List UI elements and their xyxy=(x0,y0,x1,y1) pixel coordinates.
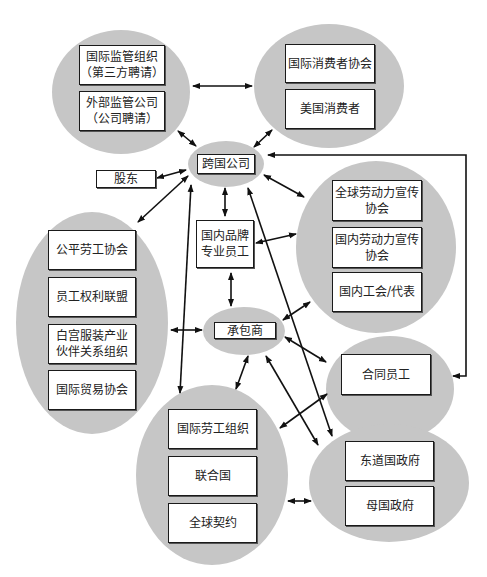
node-shareholders: 股东 xyxy=(96,170,156,188)
node-un: 联合国 xyxy=(168,456,257,496)
node-fair-labor-assoc: 公平劳工协会 xyxy=(48,230,136,270)
node-intl-monitoring-org: 国际监管组织 （第三方聘请） xyxy=(79,45,165,85)
node-mnc: 跨国公司 xyxy=(197,154,255,174)
node-global-labor-advocacy: 全球劳动力宣传 协会 xyxy=(332,180,422,221)
node-host-govt: 东道国政府 xyxy=(345,441,434,481)
node-domestic-brand-staff: 国内品牌 专业员工 xyxy=(196,220,254,268)
stakeholder-diagram: 国际监管组织 （第三方聘请） 外部监管公司 （公司聘请） 国际消费者协会 美国消… xyxy=(0,0,487,577)
node-intl-trade-assoc: 国际贸易协会 xyxy=(48,370,136,410)
consumers-group xyxy=(254,24,404,148)
node-us-consumers: 美国消费者 xyxy=(285,89,375,129)
node-worker-rights-consortium: 员工权利联盟 xyxy=(48,277,136,317)
node-domestic-unions: 国内工会/代表 xyxy=(332,272,422,312)
node-home-govt: 母国政府 xyxy=(345,486,434,526)
node-ilo: 国际劳工组织 xyxy=(168,409,257,449)
node-intl-consumer-assoc: 国际消费者协会 xyxy=(285,44,375,83)
node-contractor: 承包商 xyxy=(214,322,276,339)
node-apparel-industry-partnership: 白宫服装产业 伙伴关系组织 xyxy=(48,324,136,364)
node-contract-workers: 合同员工 xyxy=(341,354,431,395)
node-domestic-labor-advocacy: 国内劳动力宣传 协会 xyxy=(332,227,422,268)
node-global-compact: 全球契约 xyxy=(168,503,257,543)
node-external-monitoring-firm: 外部监管公司 （公司聘请） xyxy=(79,91,165,131)
